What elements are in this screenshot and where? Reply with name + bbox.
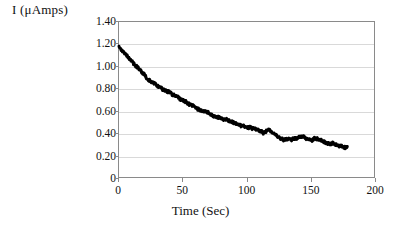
y-tick-mark	[114, 88, 118, 89]
data-series-line	[119, 22, 376, 179]
x-tick-mark	[311, 178, 312, 182]
plot-area	[118, 21, 375, 178]
y-tick-mark	[114, 66, 118, 67]
series-polyline	[119, 46, 347, 148]
x-tick-label: 200	[355, 184, 395, 196]
x-tick-label: 100	[227, 184, 267, 196]
x-axis-label: Time (Sec)	[0, 203, 401, 219]
y-tick-label: 0.20	[60, 150, 116, 162]
y-tick-label: 0.60	[60, 105, 116, 117]
y-tick-label: 0.40	[60, 127, 116, 139]
x-tick-mark	[375, 178, 376, 182]
y-tick-label: 1.40	[60, 15, 116, 27]
x-tick-mark	[247, 178, 248, 182]
x-tick-mark	[118, 178, 119, 182]
y-tick-mark	[114, 111, 118, 112]
y-tick-label: 0.80	[60, 82, 116, 94]
chart-figure: I (μAmps) 00.200.400.600.801.001.201.40 …	[0, 0, 401, 234]
x-tick-label: 150	[291, 184, 331, 196]
y-tick-label: 1.20	[60, 37, 116, 49]
x-tick-mark	[182, 178, 183, 182]
x-tick-label: 0	[98, 184, 138, 196]
y-tick-mark	[114, 21, 118, 22]
y-tick-mark	[114, 156, 118, 157]
y-tick-mark	[114, 133, 118, 134]
y-tick-label: 0	[60, 172, 116, 184]
y-tick-label: 1.00	[60, 60, 116, 72]
y-tick-mark	[114, 43, 118, 44]
x-tick-label: 50	[162, 184, 202, 196]
y-axis-tick-labels: 00.200.400.600.801.001.201.40	[58, 0, 116, 234]
